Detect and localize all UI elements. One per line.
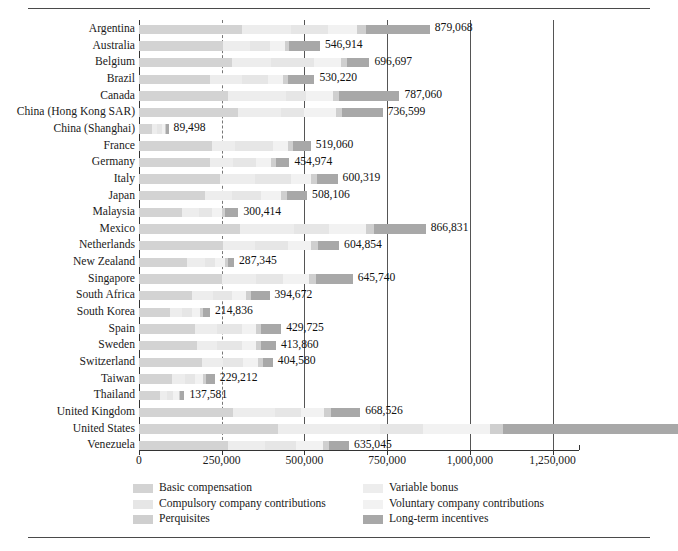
bar-value-label: 546,914 [325,39,363,51]
bar-row[interactable]: Taiwan229,212 [139,372,579,389]
bar-row[interactable]: Venezuela635,045 [139,438,579,455]
stacked-bar[interactable] [139,124,169,133]
bar-row[interactable]: China (Shanghai)89,498 [139,122,579,139]
stacked-bar[interactable] [139,358,273,367]
bar-value-label: 300,414 [243,206,281,218]
category-label: Sweden [98,338,135,355]
bar-segment [242,341,257,350]
bar-row[interactable]: Australia546,914 [139,39,579,56]
bar-segment [182,208,199,217]
bar-segment [324,408,331,417]
stacked-bar[interactable] [139,108,383,117]
bar-row[interactable]: Sweden413,860 [139,338,579,355]
stacked-bar[interactable] [139,324,281,333]
bar-segment [318,241,339,250]
stacked-bar[interactable] [139,158,289,167]
bar-value-label: 866,831 [431,222,469,234]
stacked-bar[interactable] [139,91,399,100]
bar-value-label: 668,526 [365,405,403,417]
bar-value-label: 696,697 [374,56,412,68]
bar-segment [242,25,292,34]
stacked-bar[interactable] [139,174,338,183]
bar-row[interactable]: United States1,932,580 [139,422,579,439]
bar-row[interactable]: Brazil530,220 [139,72,579,89]
bar-row[interactable]: Netherlands604,854 [139,238,579,255]
bar-segment [139,258,187,267]
bar-row[interactable]: Italy600,319 [139,172,579,189]
legend-swatch-icon [133,515,153,524]
bar-segment [139,58,232,67]
bar-row[interactable]: Singapore645,740 [139,272,579,289]
stacked-bar[interactable] [139,374,215,383]
stacked-bar[interactable] [139,308,210,317]
stacked-bar[interactable] [139,274,353,283]
bar-row[interactable]: China (Hong Kong SAR)736,599 [139,105,579,122]
bar-segment [139,91,228,100]
stacked-bar[interactable] [139,408,360,417]
bar-row[interactable]: Malaysia300,414 [139,205,579,222]
legend-label: Compulsory company contributions [159,497,326,511]
bar-row[interactable]: South Korea214,836 [139,305,579,322]
bar-row[interactable]: Switzerland404,580 [139,355,579,372]
stacked-bar[interactable] [139,75,314,84]
bar-row[interactable]: Germany454,974 [139,155,579,172]
bar-row[interactable]: Argentina879,068 [139,22,579,39]
stacked-bar[interactable] [139,241,339,250]
stacked-bar[interactable] [139,291,270,300]
stacked-bar[interactable] [139,191,307,200]
stacked-bar[interactable] [139,141,311,150]
stacked-bar[interactable] [139,41,320,50]
stacked-bar[interactable] [139,208,238,217]
bar-row[interactable]: Japan508,106 [139,189,579,206]
bar-segment [331,408,360,417]
stacked-bar[interactable] [139,441,349,450]
bar-segment [167,391,174,400]
bar-segment [490,424,503,433]
bar-row[interactable]: Spain429,725 [139,322,579,339]
stacked-bar[interactable] [139,224,426,233]
category-label: Argentina [89,22,135,39]
bar-row[interactable]: Belgium696,697 [139,55,579,72]
bar-row[interactable]: Canada787,060 [139,89,579,106]
bar-row[interactable]: Thailand137,581 [139,388,579,405]
bar-segment [288,75,315,84]
bar-segment [240,224,295,233]
x-tick-label: 500,000 [286,454,324,467]
bar-row[interactable]: New Zealand287,345 [139,255,579,272]
bar-row[interactable]: Mexico866,831 [139,222,579,239]
stacked-bar[interactable] [139,424,678,433]
stacked-bar[interactable] [139,258,234,267]
category-label: Thailand [94,388,135,405]
bar-segment [380,424,423,433]
bar-value-label: 413,860 [281,339,319,351]
category-label: United Kingdom [57,405,135,422]
legend-label: Variable bonus [389,481,458,495]
bar-row[interactable]: France519,060 [139,139,579,156]
bar-row[interactable]: South Africa394,672 [139,288,579,305]
bar-segment [423,424,489,433]
bar-value-label: 287,345 [239,255,277,267]
category-label: Malaysia [93,205,136,222]
stacked-bar[interactable] [139,391,184,400]
bar-segment [223,241,254,250]
bar-segment [255,174,291,183]
bar-segment [261,324,281,333]
category-label: Switzerland [80,355,135,372]
bar-segment [374,224,426,233]
category-label: Germany [92,155,135,172]
bar-segment [139,124,152,133]
bar-segment [232,58,272,67]
bar-value-label: 787,060 [404,89,442,101]
stacked-bar[interactable] [139,25,430,34]
bar-value-label: 600,319 [343,172,381,184]
bar-segment [261,341,276,350]
stacked-bar[interactable] [139,341,276,350]
bar-value-label: 214,836 [215,305,253,317]
bar-row[interactable]: United Kingdom668,526 [139,405,579,422]
bar-segment [261,191,281,200]
bar-segment [222,274,257,283]
bar-value-label: 137,581 [190,389,228,401]
stacked-bar[interactable] [139,58,369,67]
bar-segment [228,258,234,267]
x-tick-label: 0 [136,454,142,467]
